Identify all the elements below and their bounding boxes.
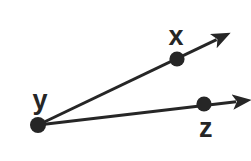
- point-dot-y: [30, 117, 46, 133]
- angle-diagram-figure: x y z: [0, 0, 251, 161]
- point-dot-z: [196, 96, 211, 111]
- point-label-x: x: [169, 23, 184, 50]
- geometry-canvas: [0, 0, 251, 161]
- point-label-y: y: [33, 87, 48, 114]
- point-dot-x: [169, 51, 184, 66]
- figure-background: [0, 0, 251, 161]
- point-label-z: z: [199, 115, 213, 142]
